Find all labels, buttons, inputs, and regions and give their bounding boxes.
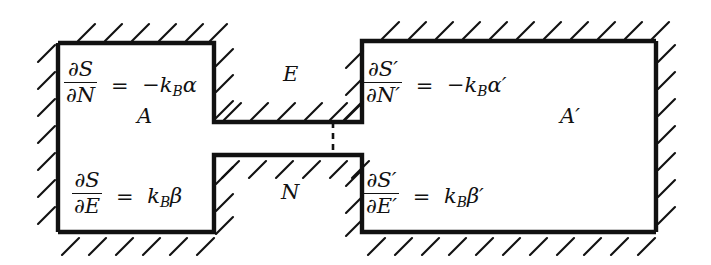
hatch-right-top: [382, 22, 669, 39]
left-system-fill: [58, 43, 333, 232]
hatch-upper-channel-left-face: [216, 49, 233, 118]
hatch-lower-channel-left-face: [216, 167, 233, 234]
hatch-lower-channel-ceiling: [222, 161, 369, 178]
hatch-upper-channel-floor: [224, 103, 361, 120]
figure-canvas: ∂S ∂N = −kBα A ∂S ∂E = kBβ ∂S′ ∂N′ = −kB…: [0, 0, 711, 265]
diagram-drawing: [0, 0, 711, 265]
hatch-left-bottom: [62, 238, 214, 255]
hatch-right-bottom: [368, 238, 655, 255]
hatch-left-top: [78, 24, 227, 41]
hatch-right-side: [658, 45, 675, 224]
hatch-left-side: [38, 45, 55, 224]
right-system-fill: [333, 41, 656, 232]
